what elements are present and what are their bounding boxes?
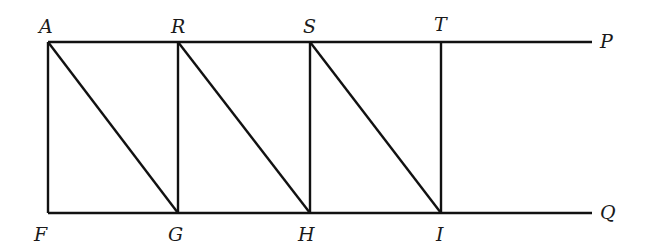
label-F: F: [33, 223, 48, 245]
label-H: H: [297, 223, 315, 245]
geometry-diagram: A R S T P F G H I Q: [0, 0, 645, 252]
label-G: G: [168, 223, 183, 245]
label-T: T: [434, 13, 448, 35]
label-R: R: [170, 15, 185, 37]
segment-RH: [178, 42, 310, 213]
label-I: I: [435, 223, 444, 245]
label-P: P: [599, 30, 614, 52]
label-A: A: [37, 15, 53, 37]
segment-AG: [48, 42, 178, 213]
label-Q: Q: [600, 201, 616, 223]
label-S: S: [303, 15, 316, 37]
segment-SI: [310, 42, 441, 213]
